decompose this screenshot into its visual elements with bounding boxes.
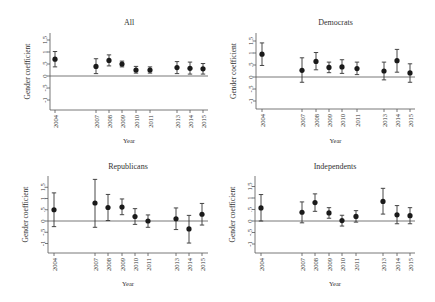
x-tick-label: 2013 xyxy=(381,114,388,127)
x-tick-label: 2011 xyxy=(354,114,361,127)
data-point-2007 xyxy=(93,59,98,74)
panel-republicans: Republicans1.51.50-.5-1Gender coefficien… xyxy=(21,162,208,287)
point-marker xyxy=(105,205,110,210)
y-tick-label: -.5 xyxy=(246,229,253,236)
point-marker xyxy=(407,213,412,218)
x-axis-label: Year xyxy=(329,280,342,287)
y-tick-label: 0 xyxy=(41,74,48,77)
panel-title: All xyxy=(124,18,135,27)
point-marker xyxy=(381,68,386,73)
data-point-2013 xyxy=(380,188,385,214)
x-tick-label: 2009 xyxy=(326,258,333,271)
x-tick-label: 2014 xyxy=(187,114,194,128)
point-marker xyxy=(199,212,204,217)
point-marker xyxy=(200,66,205,71)
x-tick-label: 2013 xyxy=(173,258,180,271)
y-tick-label: 0 xyxy=(39,219,46,222)
point-marker xyxy=(258,205,263,210)
x-tick-label: 2009 xyxy=(119,115,126,128)
y-axis-label: Gender coefficient xyxy=(228,186,237,243)
x-tick-label: 2004 xyxy=(52,114,59,128)
point-marker xyxy=(312,200,317,205)
data-point-2010 xyxy=(339,215,344,226)
x-tick-label: 2015 xyxy=(200,115,207,128)
data-point-2009 xyxy=(119,61,124,67)
panel-independents: Independents1.51.50-.5-1Gender coefficie… xyxy=(228,162,415,287)
data-point-2010 xyxy=(132,209,137,225)
data-point-2004 xyxy=(258,195,263,221)
panel-title: Independents xyxy=(314,162,357,171)
y-tick-label: 1.5 xyxy=(41,36,48,44)
point-marker xyxy=(339,218,344,223)
point-marker xyxy=(326,65,331,70)
x-tick-label: 2009 xyxy=(326,114,333,127)
point-marker xyxy=(354,66,359,71)
y-tick-label: 0 xyxy=(247,75,254,78)
y-axis-label: Gender coefficient xyxy=(23,43,32,100)
data-point-2009 xyxy=(326,62,331,73)
panel-title: Republicans xyxy=(108,162,148,171)
data-point-2015 xyxy=(200,64,205,75)
y-tick-label: -1 xyxy=(246,241,253,246)
data-point-2011 xyxy=(354,62,359,74)
y-tick-label: .5 xyxy=(247,63,254,68)
point-marker xyxy=(51,207,56,212)
x-axis-label: Year xyxy=(123,137,136,144)
y-tick-label: 1 xyxy=(247,51,254,54)
y-tick-label: -1 xyxy=(39,241,46,246)
data-point-2008 xyxy=(105,194,110,220)
point-marker xyxy=(259,52,264,57)
panel-title: Democrats xyxy=(318,18,353,27)
x-axis-label: Year xyxy=(122,280,135,287)
y-tick-label: -.5 xyxy=(247,85,254,92)
x-tick-label: 2008 xyxy=(106,115,113,128)
data-point-2015 xyxy=(407,64,412,82)
data-point-2008 xyxy=(106,55,111,66)
point-marker xyxy=(326,210,331,215)
point-marker xyxy=(147,67,152,72)
data-point-2013 xyxy=(174,62,179,74)
data-point-2011 xyxy=(147,67,152,73)
x-tick-label: 2007 xyxy=(93,114,100,128)
x-tick-label: 2008 xyxy=(105,258,112,271)
point-marker xyxy=(52,57,57,62)
point-marker xyxy=(187,66,192,71)
point-marker xyxy=(186,226,191,231)
data-point-2010 xyxy=(133,66,138,73)
x-tick-label: 2011 xyxy=(145,258,152,271)
data-point-2007 xyxy=(299,58,304,82)
x-tick-label: 2008 xyxy=(313,114,320,127)
x-tick-label: 2015 xyxy=(199,258,206,271)
point-marker xyxy=(133,67,138,72)
x-tick-label: 2010 xyxy=(133,115,140,128)
data-point-2007 xyxy=(299,202,304,223)
point-marker xyxy=(299,68,304,73)
data-point-2007 xyxy=(92,179,97,227)
x-tick-label: 2007 xyxy=(92,257,99,271)
y-tick-label: 1.5 xyxy=(39,183,46,191)
data-point-2009 xyxy=(326,208,331,219)
y-tick-label: -.5 xyxy=(39,229,46,236)
x-tick-label: 2007 xyxy=(299,257,306,271)
point-marker xyxy=(106,58,111,63)
data-point-2010 xyxy=(339,60,344,74)
point-marker xyxy=(92,200,97,205)
y-tick-label: 1.5 xyxy=(247,37,254,45)
data-point-2011 xyxy=(353,211,358,223)
y-tick-label: 1 xyxy=(246,196,253,199)
x-tick-label: 2014 xyxy=(394,257,401,271)
data-point-2004 xyxy=(259,43,264,66)
x-tick-label: 2004 xyxy=(258,257,265,271)
x-tick-label: 2008 xyxy=(312,258,319,271)
point-marker xyxy=(313,59,318,64)
point-marker xyxy=(407,70,412,75)
x-tick-label: 2015 xyxy=(407,114,414,127)
point-marker xyxy=(173,216,178,221)
x-tick-label: 2015 xyxy=(407,258,414,271)
point-marker xyxy=(299,210,304,215)
x-tick-label: 2014 xyxy=(394,113,401,127)
data-point-2008 xyxy=(312,194,317,211)
data-point-2009 xyxy=(119,199,124,215)
y-axis-label: Gender coefficient xyxy=(229,42,238,99)
y-tick-label: -.5 xyxy=(41,84,48,91)
